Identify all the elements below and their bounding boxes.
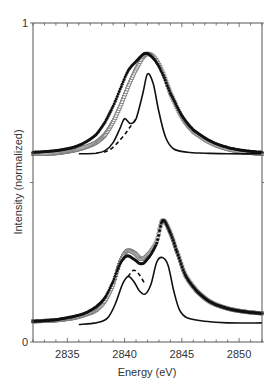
y-axis-title: Intensity (normalized) (12, 129, 24, 234)
x-tick-label: 2835 (55, 348, 79, 360)
series-open-markers (31, 219, 263, 323)
x-tick-label: 2840 (112, 348, 136, 360)
panel-upper (31, 52, 263, 156)
panel-lower (31, 219, 263, 325)
y-tick-label: 1 (22, 17, 28, 29)
axes (30, 23, 264, 342)
x-axis-title: Energy (eV) (118, 366, 177, 378)
y-tick-label: 0 (22, 336, 28, 348)
series-solid-line (79, 257, 262, 324)
series-filled-markers (32, 52, 264, 154)
x-tick-label: 2850 (227, 348, 251, 360)
plot-series (31, 52, 263, 325)
x-tick-label: 2845 (170, 348, 194, 360)
series-open-markers (31, 52, 263, 155)
chart: 283528402845285001 Energy (eV) Intensity… (0, 0, 280, 388)
